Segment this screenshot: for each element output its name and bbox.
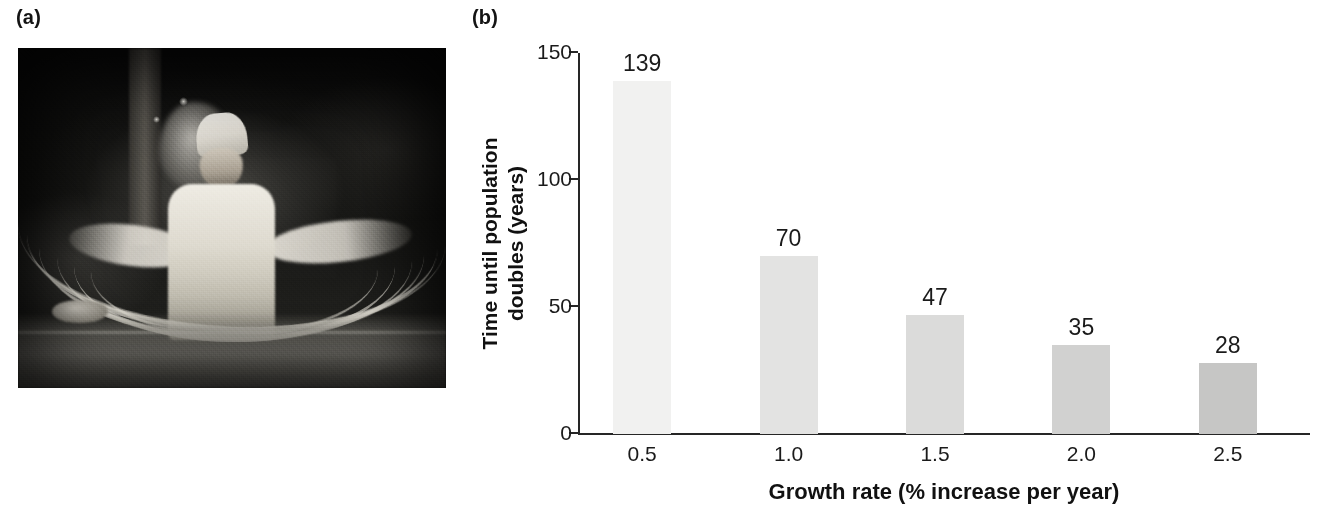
photo-dough-lump <box>52 300 108 324</box>
y-tick-label: 50 <box>549 294 572 318</box>
photo-figure <box>18 48 446 388</box>
bar[interactable]: 352.0 <box>1052 345 1110 434</box>
y-axis-title: Time until population doubles (years) <box>472 53 534 434</box>
photo-right-arm <box>265 214 414 270</box>
photo-noodle-strand-4 <box>74 191 395 342</box>
noodle-maker-photo <box>18 48 446 388</box>
photo-noodle-strand-6 <box>18 125 446 343</box>
photo-chef-jacket <box>168 184 275 340</box>
x-axis-title: Growth rate (% increase per year) <box>578 479 1310 505</box>
bar[interactable]: 701.0 <box>760 256 818 434</box>
photo-chef-hat <box>194 110 249 157</box>
photo-noodle-strand-1 <box>23 143 440 341</box>
y-tick-label: 0 <box>560 421 572 445</box>
photo-highlight-1 <box>179 97 188 106</box>
plot-area: 050100150 1390.5701.0471.5352.0282.5 <box>578 53 1310 434</box>
photo-left-arm <box>67 217 199 273</box>
photo-background <box>18 48 446 388</box>
photo-noodle-strand-2 <box>38 160 426 343</box>
x-tick-label: 0.5 <box>628 442 657 466</box>
bar-value-label: 70 <box>776 225 802 252</box>
bar-value-label: 28 <box>1215 332 1241 359</box>
photo-chef-face <box>199 147 245 191</box>
x-tick-label: 1.0 <box>774 442 803 466</box>
photo-noodle-strand-5 <box>90 203 378 339</box>
y-tick-label: 100 <box>537 167 572 191</box>
bar[interactable]: 471.5 <box>906 315 964 434</box>
photo-work-counter <box>18 313 446 388</box>
photo-counter-edge <box>18 331 446 334</box>
bar-value-label: 139 <box>623 50 661 77</box>
x-tick-label: 2.5 <box>1213 442 1242 466</box>
photo-bright-blob <box>159 102 232 190</box>
y-axis-title-line1: Time until population <box>478 138 501 350</box>
bar-value-label: 47 <box>922 284 948 311</box>
panel-label-a: (a) <box>16 6 41 29</box>
bar-value-label: 35 <box>1069 314 1095 341</box>
photo-noodle-strand-3 <box>56 176 413 344</box>
panel-label-b: (b) <box>472 6 498 29</box>
y-axis-line <box>578 53 580 434</box>
bar[interactable]: 1390.5 <box>613 81 671 434</box>
photo-highlight-2 <box>153 116 160 123</box>
y-axis-title-line2: doubles (years) <box>504 166 527 321</box>
y-tick-label: 150 <box>537 40 572 64</box>
photo-film-grain <box>18 48 446 388</box>
bar[interactable]: 282.5 <box>1199 363 1257 434</box>
photo-vignette <box>18 48 446 388</box>
photo-kitchen-post <box>129 48 161 245</box>
x-tick-label: 2.0 <box>1067 442 1096 466</box>
bar-chart-figure: Time until population doubles (years) 05… <box>472 36 1332 506</box>
x-tick-label: 1.5 <box>920 442 949 466</box>
